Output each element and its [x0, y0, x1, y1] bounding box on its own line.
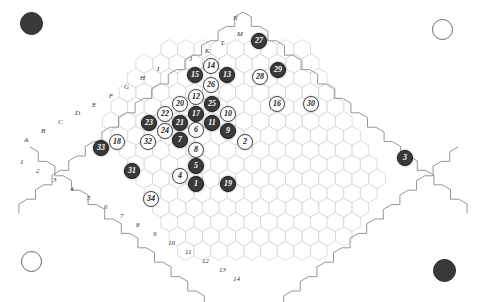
stone-white-6[interactable]: 6 [188, 122, 204, 138]
row-label-13: 13 [219, 266, 226, 274]
stone-white-22[interactable]: 22 [157, 106, 173, 122]
stone-white-16[interactable]: 16 [269, 96, 285, 112]
column-label-E: E [92, 101, 96, 109]
row-label-7: 7 [120, 212, 124, 220]
stone-black-7[interactable]: 7 [172, 132, 188, 148]
stone-black-33[interactable]: 33 [93, 140, 109, 156]
stone-black-23[interactable]: 23 [141, 115, 157, 131]
corner-marker-top-left [20, 12, 43, 35]
hex-grid [0, 0, 488, 302]
row-label-2: 2 [36, 167, 40, 175]
row-label-1: 1 [20, 158, 24, 166]
stone-white-30[interactable]: 30 [303, 96, 319, 112]
row-label-12: 12 [202, 257, 209, 265]
stone-white-12[interactable]: 12 [188, 89, 204, 105]
stone-white-24[interactable]: 24 [157, 123, 173, 139]
hex-go-board[interactable]: ABCDEFGHIJKLMN1234567891011121314 271415… [0, 0, 488, 302]
corner-marker-bottom-right [433, 259, 456, 282]
stone-black-27[interactable]: 27 [251, 33, 267, 49]
column-label-F: F [109, 92, 113, 100]
stone-black-5[interactable]: 5 [188, 158, 204, 174]
stone-white-28[interactable]: 28 [252, 69, 268, 85]
stone-black-3[interactable]: 3 [397, 150, 413, 166]
column-label-D: D [75, 109, 80, 117]
stone-white-34[interactable]: 34 [143, 191, 159, 207]
row-label-4: 4 [70, 185, 74, 193]
row-label-8: 8 [136, 221, 140, 229]
corner-marker-top-right [432, 19, 453, 40]
row-label-9: 9 [153, 230, 157, 238]
column-label-H: H [140, 74, 145, 82]
column-label-L: L [221, 39, 225, 47]
stone-black-9[interactable]: 9 [220, 123, 236, 139]
stone-black-31[interactable]: 31 [124, 163, 140, 179]
column-label-I: I [157, 65, 159, 73]
stone-black-17[interactable]: 17 [188, 106, 204, 122]
stone-black-15[interactable]: 15 [187, 67, 203, 83]
column-label-B: B [41, 127, 45, 135]
corner-marker-bottom-left [21, 251, 42, 272]
column-label-N: N [233, 14, 238, 22]
stone-black-11[interactable]: 11 [204, 115, 220, 131]
stone-black-13[interactable]: 13 [219, 67, 235, 83]
column-label-G: G [124, 83, 129, 91]
stone-white-14[interactable]: 14 [203, 58, 219, 74]
stone-white-4[interactable]: 4 [172, 168, 188, 184]
stone-white-10[interactable]: 10 [220, 106, 236, 122]
column-label-C: C [58, 118, 63, 126]
stone-black-21[interactable]: 21 [172, 115, 188, 131]
column-label-K: K [205, 47, 210, 55]
row-label-10: 10 [168, 239, 175, 247]
stone-white-32[interactable]: 32 [140, 134, 156, 150]
stone-black-1[interactable]: 1 [188, 176, 204, 192]
stone-white-8[interactable]: 8 [188, 142, 204, 158]
column-label-M: M [237, 30, 243, 38]
stone-white-26[interactable]: 26 [203, 77, 219, 93]
row-label-11: 11 [185, 248, 191, 256]
row-label-3: 3 [53, 176, 57, 184]
stone-white-20[interactable]: 20 [172, 96, 188, 112]
stone-black-29[interactable]: 29 [270, 62, 286, 78]
row-label-14: 14 [233, 275, 240, 283]
row-label-5: 5 [87, 194, 91, 202]
column-label-A: A [24, 136, 28, 144]
stone-black-19[interactable]: 19 [220, 176, 236, 192]
row-label-6: 6 [104, 203, 108, 211]
column-label-J: J [189, 55, 192, 63]
stone-white-18[interactable]: 18 [109, 134, 125, 150]
stone-black-25[interactable]: 25 [204, 96, 220, 112]
stone-white-2[interactable]: 2 [237, 134, 253, 150]
